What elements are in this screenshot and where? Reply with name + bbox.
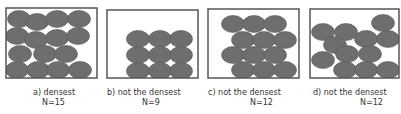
particle-ellipse xyxy=(27,62,50,79)
particle-ellipse xyxy=(6,62,29,79)
particle-ellipse xyxy=(47,62,70,79)
particle-ellipse xyxy=(67,28,90,45)
particle-ellipse xyxy=(222,16,245,33)
particle-ellipse xyxy=(170,63,193,80)
particle-ellipse xyxy=(377,31,400,48)
caption-a-count: N=15 xyxy=(42,98,65,108)
particle-ellipse xyxy=(55,46,78,63)
caption-c-label: c) not the densest xyxy=(208,88,281,98)
particle-ellipse xyxy=(232,32,255,49)
particle-ellipse xyxy=(170,47,193,64)
particle-ellipse xyxy=(253,62,276,79)
caption-b-label: b) not the densest xyxy=(107,88,181,98)
caption-d-count: N=12 xyxy=(360,98,383,108)
particle-ellipse xyxy=(222,47,245,64)
particle-ellipse xyxy=(372,15,395,32)
panel-d xyxy=(310,9,400,79)
particle-ellipse xyxy=(127,31,150,48)
panel-c xyxy=(208,9,299,79)
particle-ellipse xyxy=(127,63,150,80)
particle-ellipse xyxy=(355,62,378,79)
particle-ellipse xyxy=(170,31,193,48)
particle-ellipse xyxy=(149,31,172,48)
particle-ellipse xyxy=(9,46,32,63)
panel-a xyxy=(6,8,98,79)
particle-ellipse xyxy=(68,11,91,28)
particle-ellipse xyxy=(149,47,172,64)
panel-b xyxy=(107,10,198,80)
caption-c-count: N=12 xyxy=(250,98,273,108)
particle-ellipse xyxy=(46,11,69,28)
particle-ellipse xyxy=(359,46,382,63)
particle-ellipse xyxy=(264,47,287,64)
particle-ellipse xyxy=(274,32,297,49)
particle-ellipse xyxy=(264,16,287,33)
particle-ellipse xyxy=(34,46,57,63)
particle-ellipse xyxy=(336,46,359,63)
particle-ellipse xyxy=(243,16,266,33)
particle-ellipse xyxy=(69,62,92,79)
particle-ellipse xyxy=(149,63,172,80)
particle-ellipse xyxy=(46,30,69,47)
particle-ellipse xyxy=(334,62,357,79)
particle-ellipse xyxy=(243,47,266,64)
caption-a-label: a) densest xyxy=(33,88,75,98)
particle-ellipse xyxy=(312,52,335,69)
caption-d-label: d) not the densest xyxy=(313,88,387,98)
caption-b-count: N=9 xyxy=(142,98,160,108)
particle-ellipse xyxy=(127,47,150,64)
particle-ellipse xyxy=(274,62,297,79)
particle-ellipse xyxy=(26,14,49,31)
particle-ellipse xyxy=(377,62,400,79)
particle-ellipse xyxy=(232,62,255,79)
particle-ellipse xyxy=(253,32,276,49)
particle-ellipse xyxy=(355,31,378,48)
